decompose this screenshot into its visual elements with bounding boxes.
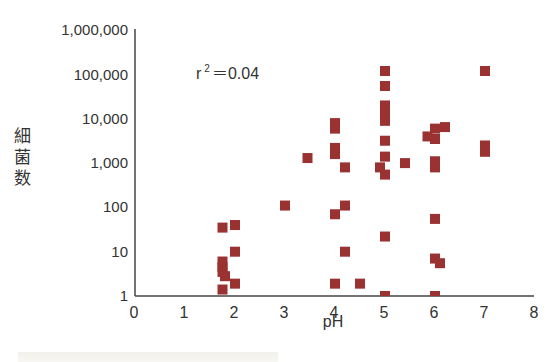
y-tick-label: 10 — [111, 243, 128, 260]
data-point — [218, 285, 228, 295]
annotation-superscript: 2 — [204, 63, 210, 74]
data-point — [400, 158, 410, 168]
axes — [135, 29, 534, 296]
data-point — [330, 279, 340, 289]
annotation-value: ＝0.04 — [212, 65, 259, 82]
data-point — [430, 162, 440, 172]
data-point — [218, 223, 228, 233]
x-tick-label: 0 — [130, 304, 139, 321]
data-point — [330, 209, 340, 219]
data-point — [380, 232, 390, 242]
data-point — [230, 220, 240, 230]
data-point — [355, 279, 365, 289]
data-point — [220, 271, 230, 281]
data-point — [380, 81, 390, 91]
figure-caption-cropped — [18, 352, 278, 362]
data-point — [380, 152, 390, 162]
x-tick-label: 2 — [230, 304, 239, 321]
data-point — [280, 201, 290, 211]
x-tick-label: 3 — [280, 304, 289, 321]
data-point — [340, 247, 350, 257]
r-squared-annotation: r2＝0.04 — [196, 63, 259, 82]
data-point — [380, 170, 390, 180]
x-tick-label: 1 — [180, 304, 189, 321]
y-tick-label: 1 — [120, 287, 128, 304]
data-point — [480, 147, 490, 157]
data-point — [340, 162, 350, 172]
y-axis-label-char: 菌 — [12, 147, 32, 168]
x-tick-label: 7 — [480, 304, 489, 321]
data-point — [230, 247, 240, 257]
x-axis-label: pH — [323, 313, 343, 330]
x-tick-label: 5 — [380, 304, 389, 321]
data-point — [380, 291, 390, 296]
data-point — [440, 122, 450, 132]
y-tick-label: 1,000,000 — [61, 21, 128, 38]
y-tick-label: 100,000 — [74, 66, 128, 83]
y-tick-label: 10,000 — [82, 110, 128, 127]
y-axis-label-char: 細 — [12, 126, 32, 147]
data-point — [430, 291, 440, 296]
data-point — [480, 66, 490, 76]
data-point — [303, 153, 313, 163]
data-point — [230, 279, 240, 289]
data-point — [330, 124, 340, 134]
y-axis-label: 細 菌 数 — [12, 126, 32, 189]
y-tick-label: 1,000 — [90, 154, 128, 171]
y-axis-label-char: 数 — [12, 168, 32, 189]
x-tick-label: 8 — [530, 304, 539, 321]
data-point — [430, 134, 440, 144]
data-point — [330, 149, 340, 159]
y-tick-labels: 1101001,00010,000100,0001,000,000 — [61, 21, 128, 304]
x-tick-label: 6 — [430, 304, 439, 321]
annotation-r: r — [196, 65, 202, 82]
data-point — [340, 201, 350, 211]
data-point — [380, 116, 390, 126]
data-point — [435, 258, 445, 268]
data-point — [380, 136, 390, 146]
data-points — [218, 66, 491, 296]
data-point — [380, 66, 390, 76]
y-tick-label: 100 — [103, 198, 128, 215]
data-point — [430, 214, 440, 224]
